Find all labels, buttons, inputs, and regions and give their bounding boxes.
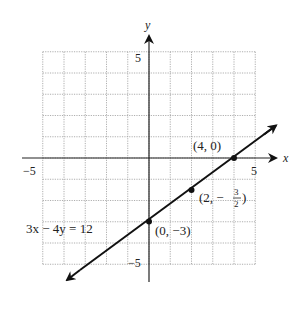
point-0-neg3 [146, 219, 152, 225]
y-tick-5: 5 [135, 51, 141, 65]
point-label-2-neg1.5: (2, − 3 2 ) [199, 187, 246, 209]
svg-text:2: 2 [234, 199, 239, 209]
point-2-neg1.5 [189, 187, 195, 193]
equation-label: 3x − 4y = 12 [26, 221, 93, 236]
y-tick-neg5: −5 [128, 256, 141, 270]
point-4-0 [231, 155, 237, 161]
line-arrow-up [264, 126, 276, 135]
graph: x y −5 5 5 −5 3x − 4y = 12 (4, 0) (0, −3… [0, 0, 300, 309]
point-label-0-neg3: (0, −3) [155, 223, 191, 238]
svg-text:): ) [242, 190, 246, 205]
y-axis-label: y [144, 18, 151, 32]
x-tick-neg5: −5 [23, 164, 36, 178]
svg-text:(2, −: (2, − [199, 190, 224, 205]
x-tick-5: 5 [251, 164, 257, 178]
x-axis-label: x [282, 151, 289, 165]
svg-text:3: 3 [234, 187, 239, 197]
point-label-4-0: (4, 0) [193, 138, 221, 153]
line-arrow-down [67, 270, 80, 280]
